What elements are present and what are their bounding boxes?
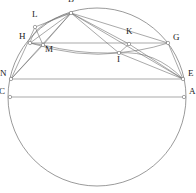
point-marker-B[interactable] (69, 11, 72, 14)
segment-K-E (129, 44, 183, 79)
segment-B-L (35, 13, 71, 27)
point-marker-G[interactable] (166, 41, 169, 44)
segment-N-M (11, 45, 43, 79)
point-label-L: L (32, 9, 38, 19)
point-marker-H[interactable] (28, 41, 31, 44)
point-marker-N[interactable] (9, 77, 12, 80)
point-marker-C[interactable] (8, 95, 11, 98)
point-label-M: M (45, 44, 53, 54)
point-marker-K[interactable] (127, 42, 130, 45)
point-label-I: I (117, 54, 120, 64)
point-label-A: A (189, 86, 196, 96)
point-label-C: C (0, 86, 5, 96)
point-marker-E[interactable] (181, 77, 184, 80)
point-label-G: G (173, 32, 180, 42)
diagram-canvas: BLHMKGINECA (0, 0, 196, 193)
segment-B-I (71, 13, 119, 53)
point-label-K: K (126, 26, 133, 36)
point-marker-L[interactable] (33, 25, 36, 28)
point-label-H: H (19, 31, 26, 41)
point-label-E: E (188, 68, 194, 78)
point-label-B: B (68, 0, 74, 4)
point-marker-A[interactable] (182, 95, 185, 98)
arc-M-G (43, 43, 168, 53)
point-label-N: N (0, 68, 7, 78)
geometry-figure: BLHMKGINECA (0, 0, 196, 193)
